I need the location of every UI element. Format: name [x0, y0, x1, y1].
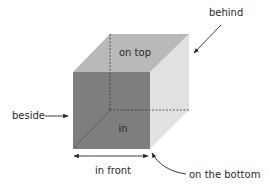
label-in-front: in front	[95, 165, 131, 176]
on-the-bottom-arrow	[152, 153, 186, 174]
cube-front-face	[73, 72, 150, 149]
label-in: in	[118, 123, 127, 134]
label-beside: beside	[12, 110, 45, 121]
label-on-the-bottom: on the bottom	[189, 169, 260, 180]
label-on-top: on top	[119, 47, 151, 58]
label-behind: behind	[209, 7, 243, 18]
behind-arrow	[194, 25, 221, 53]
cube-prepositions-diagram: on top in beside behind in front on the …	[0, 0, 269, 191]
